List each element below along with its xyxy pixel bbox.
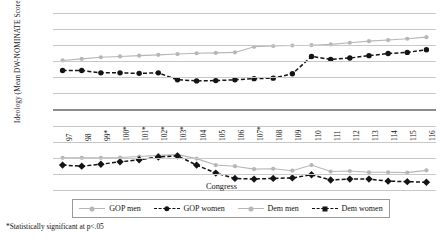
x-tick-label: 106 [238,130,245,141]
legend-swatch-dem-women [312,204,338,213]
x-tick-label: 102* [161,126,168,141]
data-point [424,47,429,52]
x-tick-label: 112 [353,130,360,141]
data-point [348,169,352,173]
chart-figure: Ideology (Mean DW-NOMINATE Score) 979899… [0,0,443,238]
data-point [309,163,313,167]
series-layer [53,13,436,190]
data-point [156,70,161,75]
x-tick-label: 111 [334,130,341,141]
legend-swatch-gop-men [79,204,105,213]
data-point [290,71,295,76]
data-point [59,161,66,168]
data-point [97,161,104,168]
data-point [424,168,428,172]
data-point [213,78,218,83]
legend-label: Dem men [266,204,299,213]
gridline [53,45,436,46]
data-point [385,51,390,56]
data-point [233,50,237,54]
x-tick-label: 101* [142,126,149,141]
x-tick-label: 99* [104,130,111,141]
gridline [53,61,436,62]
data-point [194,78,199,83]
data-point [214,51,218,55]
data-point [252,167,256,171]
data-point [270,175,277,182]
legend-item-gop-women[interactable]: GOP women [154,204,225,213]
data-point [156,53,160,57]
data-point [405,50,410,55]
data-point [99,55,103,59]
legend-label: GOP women [182,204,225,213]
x-tick-label: 97 [66,134,73,141]
data-point [424,35,428,39]
data-point [289,174,296,181]
series-line-gop-men [63,37,427,60]
footnote: *Statistically significant at p<.05 [6,222,104,231]
gridline [53,93,436,94]
legend-swatch-dem-men [238,204,264,213]
data-point [347,55,352,60]
data-point [271,167,275,171]
gridline [53,77,436,78]
data-point [405,37,409,41]
legend-item-gop-men[interactable]: GOP men [79,204,140,213]
x-tick-label: 116 [429,130,436,141]
legend-swatch-gop-women [154,204,180,213]
plot-area [53,13,436,190]
data-point [118,54,122,58]
series-line-gop-women [63,50,427,81]
data-point [233,164,237,168]
data-point [136,71,141,76]
legend-item-dem-men[interactable]: Dem men [238,204,299,213]
x-tick-label: 107* [257,126,264,141]
legend-label: Dem women [340,204,383,213]
data-point [290,169,294,173]
data-point [137,54,141,58]
x-tick-label: 109 [295,130,302,141]
data-point [78,163,85,170]
data-point [195,51,199,55]
x-tick-label: 105 [219,130,226,141]
x-tick-label: 110 [315,130,322,141]
x-tick-label: 98 [85,134,92,141]
data-point [98,70,103,75]
y-axis-title: Ideology (Mean DW-NOMINATE Score) [13,0,22,136]
x-tick-label: 100* [123,126,130,141]
data-point [79,68,84,73]
data-point [193,161,200,168]
x-axis-tick-labels: 979899*100*101*102*103*104105106107*1081… [53,108,436,144]
data-point [367,39,371,43]
data-point [366,53,371,58]
x-tick-label: 103* [180,126,187,141]
x-tick-label: 108 [276,130,283,141]
x-tick-label: 114 [391,130,398,141]
gridline [53,158,436,159]
gridline [53,29,436,30]
legend-item-dem-women[interactable]: Dem women [312,204,383,213]
data-point [60,68,65,73]
chart-legend: GOP men GOP women Dem men Dem women [72,199,390,218]
x-tick-label: 115 [410,130,417,141]
gridline [53,13,436,14]
data-point [175,52,179,56]
legend-label: GOP men [107,204,140,213]
x-tick-label: 113 [372,130,379,141]
data-point [214,163,218,167]
data-point [309,54,314,59]
gridline [53,174,436,175]
data-point [386,38,390,42]
x-tick-label: 104 [200,130,207,141]
x-axis-title: Congress [0,182,443,191]
data-point [117,70,122,75]
data-point [116,158,123,165]
data-point [231,175,238,182]
